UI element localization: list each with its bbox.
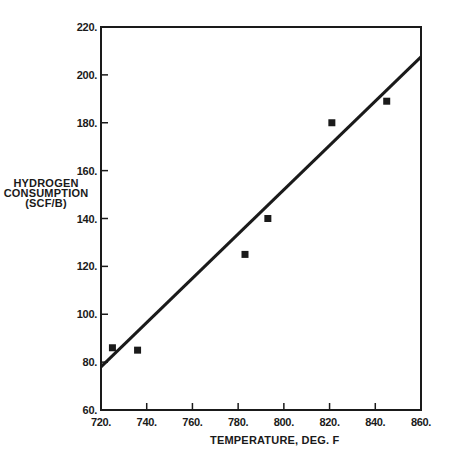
data-point-marker	[134, 347, 141, 354]
x-tick-label: 840.	[365, 416, 385, 428]
y-tick-label: 140.	[77, 213, 97, 225]
x-tick-label: 780.	[228, 416, 248, 428]
plot-border	[101, 27, 421, 410]
y-tick-label: 200.	[77, 69, 97, 81]
x-tick-label: 800.	[274, 416, 294, 428]
data-point-marker	[242, 251, 249, 258]
y-tick-label: 120.	[77, 260, 97, 272]
x-tick-label: 760.	[182, 416, 202, 428]
regression-line	[101, 57, 421, 367]
y-axis-ticks: 60.80.100.120.140.160.180.200.220.	[77, 21, 108, 416]
plot-frame	[101, 27, 421, 410]
fit-line-path	[101, 57, 421, 367]
chart: 60.80.100.120.140.160.180.200.220. 720.7…	[0, 0, 452, 469]
y-tick-label: 80.	[83, 356, 98, 368]
x-tick-label: 720.	[91, 416, 111, 428]
y-tick-label: 160.	[77, 165, 97, 177]
x-axis-ticks: 720.740.760.780.800.820.840.860.	[91, 403, 431, 428]
data-markers	[109, 98, 390, 354]
y-tick-label: 60.	[83, 404, 98, 416]
data-point-marker	[383, 98, 390, 105]
x-tick-label: 820.	[319, 416, 339, 428]
y-tick-label: 100.	[77, 308, 97, 320]
x-axis-title: TEMPERATURE, DEG. F	[210, 434, 340, 446]
y-axis-title: HYDROGEN CONSUMPTION (SCF/B)	[4, 177, 89, 209]
y-tick-label: 220.	[77, 21, 97, 33]
data-point-marker	[264, 215, 271, 222]
y-tick-label: 180.	[77, 117, 97, 129]
x-tick-label: 740.	[137, 416, 157, 428]
data-point-marker	[328, 119, 335, 126]
x-tick-label: 860.	[411, 416, 431, 428]
y-axis-title-line-3: (SCF/B)	[25, 197, 67, 209]
data-point-marker	[109, 344, 116, 351]
